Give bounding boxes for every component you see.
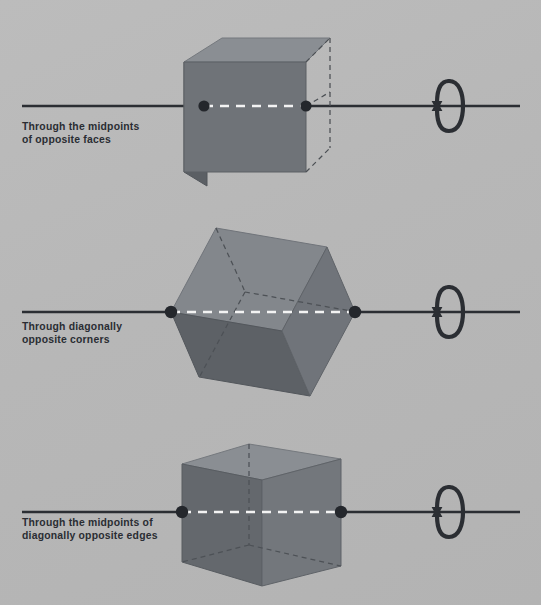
- axis-pierce-point: [198, 100, 209, 111]
- cube-rotation-axes-figure: Through the midpoints of opposite faces …: [0, 0, 541, 605]
- axis-pierce-point: [335, 506, 347, 518]
- diagram-canvas: [0, 0, 541, 605]
- axis-pierce-point: [176, 506, 188, 518]
- panel-diagonally-opposite-corners: [22, 228, 520, 396]
- axis-label-midpoints-of-edges: Through the midpoints of diagonally oppo…: [22, 516, 158, 542]
- axis-pierce-point: [349, 306, 361, 318]
- panel-midpoints-of-faces: [22, 38, 520, 186]
- axis-label-midpoints-of-faces: Through the midpoints of opposite faces: [22, 120, 140, 146]
- cube-front-left-face: [182, 464, 262, 586]
- cube-front-face: [184, 62, 306, 172]
- axis-pierce-point: [300, 100, 311, 111]
- cube-front-right-face: [262, 459, 341, 586]
- panel-midpoints-of-edges: [22, 444, 520, 586]
- axis-label-diagonally-opposite-corners: Through diagonally opposite corners: [22, 320, 122, 346]
- axis-pierce-point: [165, 306, 177, 318]
- cube-top-face: [184, 38, 330, 62]
